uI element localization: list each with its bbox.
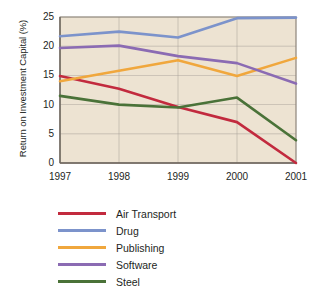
y-tick-label: 15 bbox=[30, 69, 54, 80]
x-tick-label: 1998 bbox=[96, 171, 142, 182]
y-tick-label: 25 bbox=[30, 11, 54, 22]
line-chart-figure: Return on Investment Capital (%) 0510152… bbox=[0, 0, 316, 302]
legend-item: Publishing bbox=[58, 239, 258, 256]
legend-item: Software bbox=[58, 256, 258, 273]
legend-item: Drug bbox=[58, 222, 258, 239]
legend-item-label: Drug bbox=[116, 225, 139, 237]
legend-item-label: Air Transport bbox=[116, 208, 176, 220]
chart-plot-region: Return on Investment Capital (%) 0510152… bbox=[0, 0, 316, 195]
y-tick-label: 5 bbox=[30, 128, 54, 139]
legend-color-swatch bbox=[58, 246, 106, 250]
legend-color-swatch bbox=[58, 212, 106, 216]
legend-item: Air Transport bbox=[58, 205, 258, 222]
legend-color-swatch bbox=[58, 263, 106, 267]
chart-legend: Air TransportDrugPublishingSoftwareSteel bbox=[58, 205, 258, 290]
x-tick-label: 1997 bbox=[37, 171, 83, 182]
legend-item-label: Software bbox=[116, 259, 157, 271]
legend-item: Steel bbox=[58, 273, 258, 290]
legend-color-swatch bbox=[58, 229, 106, 233]
x-tick-label: 1999 bbox=[155, 171, 201, 182]
y-tick-label: 10 bbox=[30, 99, 54, 110]
y-tick-label: 20 bbox=[30, 40, 54, 51]
x-tick-label: 2000 bbox=[214, 171, 260, 182]
legend-color-swatch bbox=[58, 280, 106, 284]
x-tick-label: 2001 bbox=[273, 171, 316, 182]
legend-item-label: Publishing bbox=[116, 242, 164, 254]
legend-item-label: Steel bbox=[116, 276, 140, 288]
y-tick-label: 0 bbox=[30, 157, 54, 168]
